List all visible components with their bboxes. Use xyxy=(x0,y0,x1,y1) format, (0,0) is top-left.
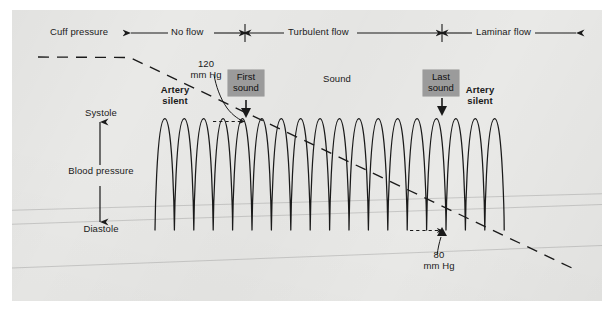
artery-silent-left-line2: silent xyxy=(150,96,200,107)
first-sound-line2: sound xyxy=(233,83,259,94)
figure-vector-layer xyxy=(0,0,614,311)
blood-pressure-figure: Cuff pressure No flow Turbulent flow Lam… xyxy=(0,0,614,311)
cuff-pressure-label: Cuff pressure xyxy=(50,27,108,38)
systole-label: Systole xyxy=(73,108,129,119)
last-sound-marker-group xyxy=(437,98,447,116)
last-sound-arrow-head xyxy=(437,106,447,116)
last-sound-box: Last sound xyxy=(423,70,459,96)
phase-label-turbulent-flow: Turbulent flow xyxy=(288,27,349,38)
sound-label: Sound xyxy=(312,74,362,85)
systolic-unit-label: mm Hg xyxy=(183,70,229,81)
phase-label-laminar-flow: Laminar flow xyxy=(476,27,531,38)
diastolic-unit-label: mm Hg xyxy=(416,261,462,272)
last-sound-line1: Last xyxy=(428,72,454,83)
artery-silent-right-line2: silent xyxy=(455,96,505,107)
diastole-label: Diastole xyxy=(73,224,129,235)
phase-label-no-flow: No flow xyxy=(171,27,203,38)
last-sound-line2: sound xyxy=(428,83,454,94)
arterial-pressure-waveform xyxy=(155,119,504,230)
first-sound-line1: First xyxy=(233,72,259,83)
first-sound-box: First sound xyxy=(228,70,264,96)
pressure-oscillation-path xyxy=(155,119,504,230)
blood-pressure-label: Blood pressure xyxy=(47,166,155,177)
